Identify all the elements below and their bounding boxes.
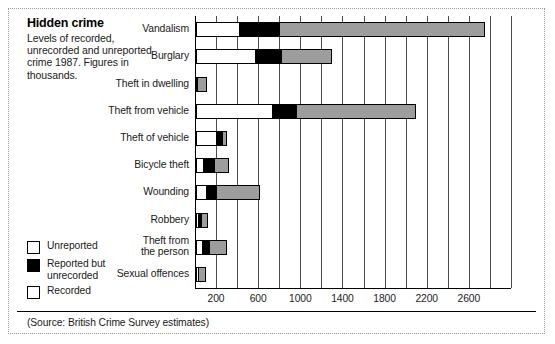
gridline-2400 [448, 16, 449, 288]
gridline-3000 [511, 16, 512, 288]
category-label: Bicycle theft [29, 159, 189, 170]
bar-segment-recorded [217, 185, 260, 200]
category-label: Burglary [29, 50, 189, 61]
bar-segment-recorded [280, 22, 484, 37]
bar-segment-unreported [196, 240, 203, 255]
gridline-1600 [364, 16, 365, 288]
x-tick-label-1800: 1800 [373, 293, 396, 304]
category-label: Robbery [29, 214, 189, 225]
bar-row: Theft of vehicle [196, 131, 227, 146]
bar-segment-reported [203, 240, 210, 255]
x-tick-label-1000: 1000 [289, 293, 312, 304]
bar-row: Vandalism [196, 22, 485, 37]
source-divider [17, 311, 536, 312]
x-tick-label-1400: 1400 [331, 293, 354, 304]
bar-segment-reported [273, 104, 297, 119]
bar-segment-recorded [297, 104, 416, 119]
bar-segment-reported [256, 49, 282, 64]
x-axis-line [195, 288, 511, 289]
bar-segment-unreported [196, 49, 256, 64]
bar-segment-reported [204, 158, 215, 173]
chart-page: Hidden crime Levels of recorded, unrecor… [0, 0, 555, 344]
plot-area: 20060010001400180022002600VandalismBurgl… [195, 16, 511, 288]
gridline-1800 [385, 16, 386, 288]
gridline-2800 [490, 16, 491, 288]
bar-row: Wounding [196, 185, 260, 200]
source-note: (Source: British Crime Survey estimates) [27, 317, 209, 328]
bar-segment-unreported [196, 22, 240, 37]
legend-swatch-recorded [27, 286, 40, 299]
bar-segment-recorded [202, 213, 208, 228]
bar-row: Burglary [196, 49, 332, 64]
bar-segment-unreported [196, 131, 217, 146]
bar-row: Theft from vehicle [196, 104, 416, 119]
category-label: Theft from the person [29, 235, 189, 258]
gridline-1400 [342, 16, 343, 288]
bar-segment-recorded [223, 131, 227, 146]
bar-segment-recorded [215, 158, 229, 173]
bar-row: Theft from the person [196, 240, 227, 255]
category-label: Theft of vehicle [29, 132, 189, 143]
category-label: Vandalism [29, 23, 189, 34]
x-tick-label-2600: 2600 [458, 293, 481, 304]
gridline-2600 [469, 16, 470, 288]
category-label: Sexual offences [29, 268, 189, 279]
category-label: Theft in dwelling [29, 78, 189, 89]
legend-label-recorded: Recorded [47, 285, 91, 297]
bar-segment-recorded [282, 49, 332, 64]
category-label: Theft from vehicle [29, 105, 189, 116]
x-tick-label-2200: 2200 [415, 293, 438, 304]
bar-segment-recorded [199, 267, 206, 282]
x-tick-label-600: 600 [250, 293, 267, 304]
gridline-2200 [427, 16, 428, 288]
bar-segment-reported [207, 185, 217, 200]
category-label: Wounding [29, 186, 189, 197]
legend-item-recorded: Recorded [27, 285, 152, 299]
bar-segment-unreported [196, 185, 207, 200]
bar-segment-unreported [196, 104, 273, 119]
x-tick-label-200: 200 [208, 293, 225, 304]
bar-segment-recorded [210, 240, 227, 255]
gridline-2000 [406, 16, 407, 288]
bar-row: Robbery [196, 213, 208, 228]
bar-row: Bicycle theft [196, 158, 229, 173]
bar-segment-unreported [196, 158, 204, 173]
bar-row: Theft in dwelling [196, 77, 207, 92]
bar-segment-reported [240, 22, 280, 37]
bar-row: Sexual offences [196, 267, 206, 282]
bar-segment-recorded [198, 77, 206, 92]
